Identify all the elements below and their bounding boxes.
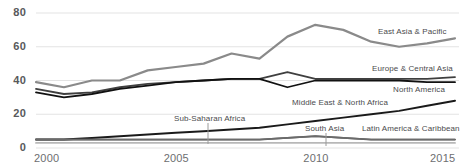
x-tick-label-2010: 2010 (303, 152, 328, 164)
x-tick-label-2000: 2000 (34, 152, 59, 164)
series-label-sub-saharan-africa: Sub-Saharan Africa (174, 114, 245, 123)
line-chart: 806040200 2000200520102015 East Asia & P… (0, 0, 467, 168)
y-tick-label-20: 20 (4, 107, 26, 119)
x-tick-label-2005: 2005 (164, 152, 189, 164)
series-line-middle-east-north-africa (36, 101, 455, 140)
series-label-middle-east-north-africa: Middle East & North Africa (292, 98, 388, 107)
x-tick-label-2015: 2015 (430, 152, 455, 164)
series-label-east-asia-pacific: East Asia & Pacific (378, 27, 447, 36)
y-tick-label-40: 40 (4, 74, 26, 86)
y-tick-label-0: 0 (4, 141, 26, 153)
y-tick-label-60: 60 (4, 40, 26, 52)
series-label-europe-central-asia: Europe & Central Asia (372, 64, 453, 73)
chart-plot-area (0, 0, 467, 168)
series-label-south-asia: South Asia (305, 124, 344, 133)
series-label-north-america: North America (393, 85, 445, 94)
y-tick-label-80: 80 (4, 6, 26, 18)
series-label-latin-america-caribbean: Latin America & Caribbean (362, 124, 460, 133)
